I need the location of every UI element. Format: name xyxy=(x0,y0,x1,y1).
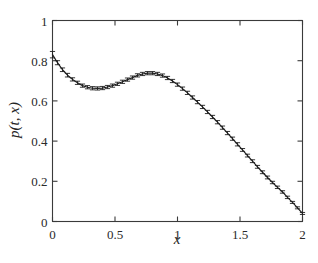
y-tick-label: 1 xyxy=(41,14,48,27)
y-tick-label: 0.8 xyxy=(31,54,47,67)
y-axis-title: p(t, x) xyxy=(7,102,22,138)
y-tick-label: 0.4 xyxy=(31,135,47,148)
x-tick-label: 0 xyxy=(49,228,56,241)
y-axis-title-text: p(t, x) xyxy=(6,102,22,138)
y-tick-label: 0.6 xyxy=(31,94,47,107)
y-tick-label: 0.2 xyxy=(31,175,47,188)
x-tick-label: 0.5 xyxy=(107,228,123,241)
y-tick-label: 0 xyxy=(41,215,48,228)
figure-background xyxy=(0,0,318,263)
x-tick-label: 1.5 xyxy=(232,228,248,241)
x-tick-label: 2 xyxy=(299,228,306,241)
chart-figure: 00.511.52 00.20.40.60.81 x p(t, x) xyxy=(0,0,318,263)
plot-canvas xyxy=(0,0,318,263)
x-axis-title: x xyxy=(174,232,181,247)
